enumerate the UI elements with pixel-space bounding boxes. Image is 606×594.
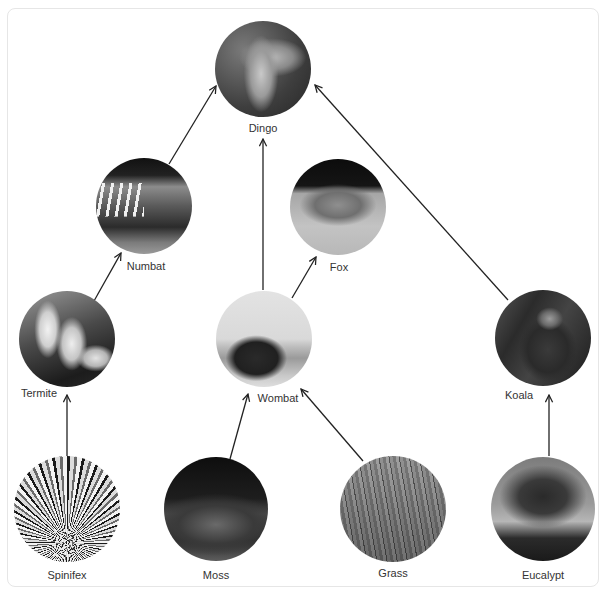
fox-photo-icon <box>290 159 386 255</box>
wombat-photo-icon <box>216 291 312 387</box>
spinifex-photo-icon <box>14 456 120 562</box>
edge-wombat-to-fox <box>292 257 316 298</box>
dingo-photo-icon <box>215 21 311 117</box>
termite-photo-icon <box>19 291 115 387</box>
edge-grass-to-wombat <box>301 389 363 461</box>
wombat-label: Wombat <box>258 392 299 405</box>
edge-moss-to-wombat <box>230 394 248 459</box>
grass-label: Grass <box>378 567 407 580</box>
eucalypt-label: Eucalypt <box>522 569 564 582</box>
fox-label: Fox <box>330 261 348 274</box>
numbat-photo-icon <box>96 158 192 254</box>
termite-label: Termite <box>21 387 57 400</box>
koala-photo-icon <box>495 290 591 386</box>
moss-photo-icon <box>164 457 268 561</box>
edge-numbat-to-dingo <box>169 86 216 164</box>
grass-photo-icon <box>340 456 446 562</box>
dingo-label: Dingo <box>249 122 278 135</box>
numbat-label: Numbat <box>127 260 166 273</box>
moss-label: Moss <box>203 569 229 582</box>
eucalypt-photo-icon <box>491 457 595 561</box>
koala-label: Koala <box>505 389 533 402</box>
edge-termite-to-numbat <box>94 253 121 301</box>
spinifex-label: Spinifex <box>47 569 86 582</box>
